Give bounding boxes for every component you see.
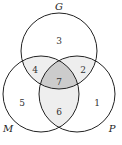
set-label-g: G (55, 1, 63, 12)
set-label-m: M (2, 123, 14, 134)
venn-diagram: G M P 3 4 2 7 5 1 6 (0, 0, 122, 145)
region-label-m-only: 5 (19, 98, 25, 108)
region-label-p-only: 1 (94, 98, 100, 108)
region-label-g-m-p: 7 (56, 77, 62, 87)
region-label-g-p: 2 (80, 65, 86, 75)
region-label-g-only: 3 (56, 36, 62, 46)
region-label-g-m: 4 (32, 65, 38, 75)
set-label-p: P (108, 123, 116, 134)
region-label-m-p: 6 (56, 107, 62, 117)
